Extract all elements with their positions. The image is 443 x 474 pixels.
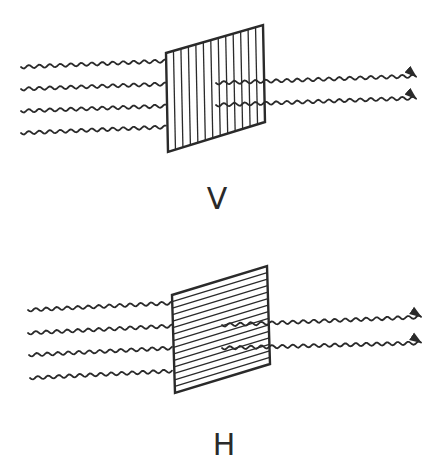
panel-vertical-polarizer	[21, 25, 416, 152]
incoming-wave	[30, 370, 172, 379]
label-horizontal: H	[213, 430, 236, 460]
diagram-canvas	[0, 0, 443, 474]
incoming-light-waves	[28, 301, 172, 379]
polarizer-grid-line	[248, 29, 250, 126]
incoming-wave	[28, 324, 172, 334]
polarizer-grid-line	[233, 34, 235, 132]
polarizer-grid-line	[218, 38, 220, 136]
transmitted-wave	[216, 75, 416, 85]
transmitted-wave	[216, 97, 416, 107]
incoming-wave	[28, 301, 172, 311]
incoming-light-waves	[21, 60, 166, 135]
panel-horizontal-polarizer	[28, 266, 421, 393]
polarizer-grid-line	[256, 27, 258, 124]
polarizer-grid-line	[203, 42, 205, 140]
polarizer-vertical-grid-lines	[173, 27, 257, 150]
polarizer-grid-line	[211, 40, 213, 138]
polarizer-grid-line	[173, 51, 175, 150]
incoming-wave	[21, 83, 166, 91]
polarizer-grid-line	[241, 31, 243, 128]
incoming-wave	[21, 105, 166, 113]
polarization-diagram: V H	[0, 0, 443, 474]
polarizer-grid-line	[188, 47, 190, 146]
transmitted-light-waves	[222, 316, 421, 350]
incoming-wave	[21, 60, 166, 69]
polarizer-grid-line	[181, 49, 183, 148]
transmitted-light-waves	[216, 75, 416, 107]
polarizer-grid-line	[196, 44, 198, 142]
polarizer-frame-vertical	[166, 25, 265, 152]
incoming-wave	[29, 347, 172, 357]
incoming-wave	[21, 126, 166, 135]
label-vertical: V	[207, 184, 228, 214]
polarizer-grid-line	[226, 36, 228, 134]
